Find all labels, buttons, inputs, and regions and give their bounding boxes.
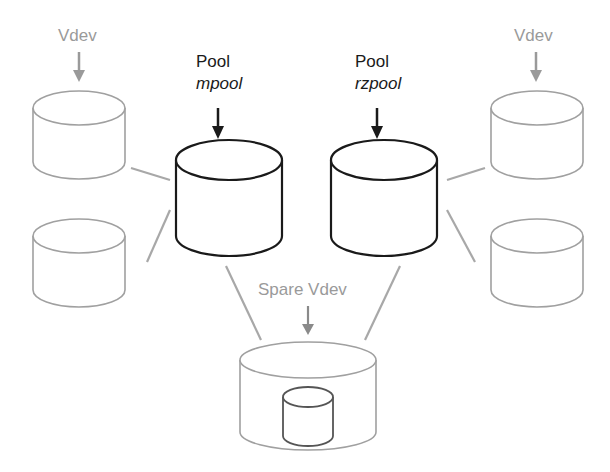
diagram-canvas bbox=[0, 0, 610, 472]
vdev-disk-left-top bbox=[33, 91, 125, 179]
spare-vdev-label: Spare Vdev bbox=[258, 280, 347, 300]
mpool-arrow bbox=[212, 108, 224, 139]
vdev-disk-left-bottom bbox=[33, 219, 125, 307]
spare-arrow bbox=[302, 306, 314, 335]
pool-name-rzpool: rzpool bbox=[355, 74, 401, 94]
vdev-left-arrow bbox=[73, 52, 85, 82]
rzpool-arrow bbox=[371, 108, 383, 139]
vdev-disk-right-top bbox=[491, 91, 583, 179]
pool-label-rzpool: Pool bbox=[355, 52, 389, 72]
pool-cylinder-mpool bbox=[176, 140, 282, 256]
vdev-label-right: Vdev bbox=[514, 26, 553, 46]
vdev-right-arrow bbox=[530, 52, 542, 82]
vdev-label-left: Vdev bbox=[58, 26, 97, 46]
pool-cylinder-rzpool bbox=[331, 140, 437, 256]
pool-name-mpool: mpool bbox=[196, 74, 242, 94]
spare-inner-disk bbox=[283, 387, 333, 446]
vdev-disk-right-bottom bbox=[491, 219, 583, 307]
pool-label-mpool: Pool bbox=[196, 52, 230, 72]
